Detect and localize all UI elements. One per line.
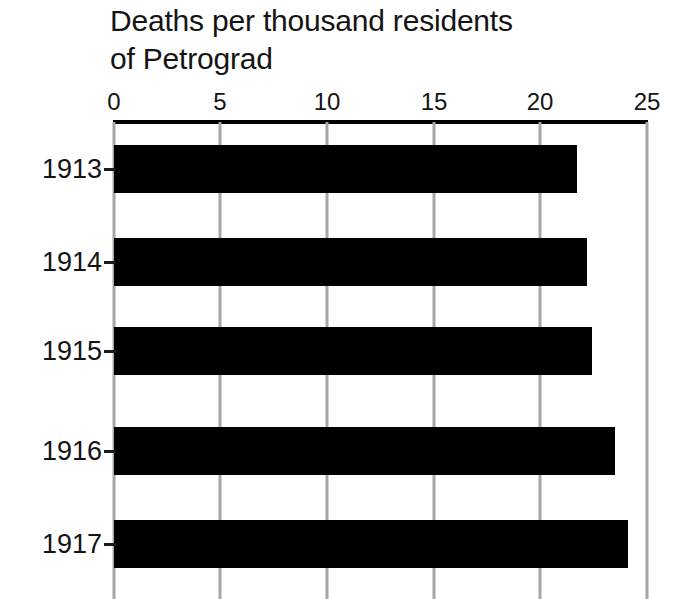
- bar-1914: [114, 238, 587, 286]
- xtick-label-20: 20: [527, 89, 554, 115]
- bar-1916: [114, 427, 615, 475]
- ycat-label-1914: 1914: [26, 247, 102, 277]
- ytick-1917: [104, 543, 116, 546]
- ytick-1915: [104, 350, 116, 353]
- plot-area: [0, 0, 694, 599]
- ycat-label-1913: 1913: [26, 154, 102, 184]
- ytick-1914: [104, 261, 116, 264]
- bar-1913: [114, 145, 577, 193]
- xtick-label-0: 0: [107, 89, 120, 115]
- ytick-1916: [104, 450, 116, 453]
- gridline-25: [646, 122, 649, 599]
- ycat-label-1917: 1917: [26, 529, 102, 559]
- xtick-label-10: 10: [314, 89, 341, 115]
- xtick-label-15: 15: [421, 89, 448, 115]
- xtick-label-25: 25: [634, 89, 661, 115]
- bar-chart: Deaths per thousand residents of Petrogr…: [0, 0, 694, 599]
- ycat-label-1916: 1916: [26, 436, 102, 466]
- bar-1917: [114, 520, 628, 568]
- xtick-label-5: 5: [213, 89, 226, 115]
- ytick-1913: [104, 168, 116, 171]
- bar-1915: [114, 327, 592, 375]
- ycat-label-1915: 1915: [26, 336, 102, 366]
